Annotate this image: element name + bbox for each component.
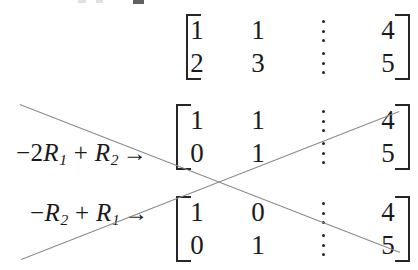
row-op-3-minus: − bbox=[30, 199, 44, 226]
row-op-3-row-a: R bbox=[44, 199, 60, 226]
matrix-1-r0-c1: 1 bbox=[245, 17, 271, 44]
top-edge-remnant-1 bbox=[78, 0, 86, 3]
matrix-3-r0-c2: 4 bbox=[375, 199, 401, 226]
row-op-2-minus: − bbox=[16, 139, 30, 166]
matrix-2-r0-c0: 1 bbox=[184, 107, 210, 134]
matrix-2-r1-c2: 5 bbox=[375, 140, 401, 167]
matrix-3-r1-c0: 0 bbox=[184, 232, 210, 259]
matrix-1-r1-c1: 3 bbox=[245, 50, 271, 77]
row-op-2-row-b: R bbox=[95, 139, 111, 166]
matrix-1-r0-separator-dots bbox=[320, 20, 326, 42]
row-op-2-row-a-index: 1 bbox=[59, 151, 67, 168]
matrix-3-r0-c0: 1 bbox=[184, 199, 210, 226]
matrix-2-r1-c0: 0 bbox=[184, 140, 210, 167]
row-op-2-plus: + bbox=[74, 139, 88, 166]
top-edge-remnant-3 bbox=[133, 0, 144, 4]
matrix-3-r1-c2: 5 bbox=[375, 232, 401, 259]
matrix-1-r0-c0: 1 bbox=[184, 17, 210, 44]
math-figure-page: 1 1 4 2 3 5 −2R1 + R2→ 1 1 4 0 1 5 −R2 +… bbox=[0, 0, 418, 270]
matrix-2-r1-separator-dots bbox=[320, 142, 326, 164]
matrix-1-r1-c2: 5 bbox=[375, 50, 401, 77]
matrix-2-r0-separator-dots bbox=[320, 110, 326, 132]
row-op-3-plus: + bbox=[75, 199, 89, 226]
matrix-3-r1-c1: 1 bbox=[245, 232, 271, 259]
row-op-3-row-a-index: 2 bbox=[60, 211, 68, 228]
row-operation-label-2: −2R1 + R2→ bbox=[16, 140, 147, 168]
row-op-2-row-b-index: 2 bbox=[111, 151, 119, 168]
row-operation-label-3: −R2 + R1→ bbox=[30, 200, 148, 228]
ascending-strike-line bbox=[21, 111, 399, 260]
row-op-2-coefficient: 2 bbox=[30, 139, 43, 166]
matrix-1-r1-separator-dots bbox=[320, 52, 326, 74]
matrix-3-r0-c1: 0 bbox=[245, 199, 271, 226]
matrix-1-r0-c2: 4 bbox=[375, 17, 401, 44]
matrix-3-r1-separator-dots bbox=[320, 234, 326, 256]
matrix-1-r1-c0: 2 bbox=[184, 50, 210, 77]
row-op-3-row-b: R bbox=[96, 199, 112, 226]
top-edge-remnant-2 bbox=[96, 0, 103, 3]
row-op-2-row-a: R bbox=[43, 139, 59, 166]
matrix-2-r0-c1: 1 bbox=[245, 107, 271, 134]
